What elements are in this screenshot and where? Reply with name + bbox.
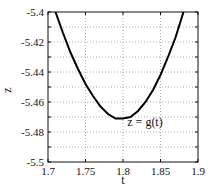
x-tick-label: 1.75	[76, 165, 96, 177]
y-tick-label: -5.48	[21, 126, 44, 138]
y-tick-label: -5.44	[21, 66, 44, 78]
chart: 1.71.751.81.851.9-5.4-5.42-5.44-5.46-5.4…	[0, 0, 208, 190]
curve-annotation: z = g(t)	[127, 115, 162, 129]
x-tick-label: 1.85	[151, 165, 171, 177]
y-tick-label: -5.5	[27, 156, 45, 168]
y-tick-label: -5.46	[21, 96, 44, 108]
x-tick-label: 1.9	[191, 165, 205, 177]
y-axis-label: z	[0, 87, 14, 92]
curve-g	[56, 0, 191, 119]
y-tick-label: -5.42	[21, 36, 44, 48]
y-tick-label: -5.4	[27, 6, 45, 18]
